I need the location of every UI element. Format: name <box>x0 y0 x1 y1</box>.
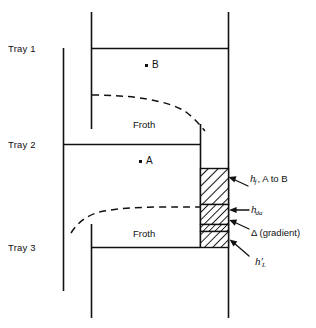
band-delta-gradient <box>201 225 229 232</box>
annotation-h-f: hf, A to B <box>250 173 288 184</box>
band-h-f <box>201 169 229 205</box>
leader-arrow-h-da <box>229 207 249 213</box>
band-h-da <box>201 205 229 225</box>
band-h-l-prime <box>201 232 229 248</box>
tray-hydraulics-figure: Tray 1 Tray 2 Tray 3 Froth Froth B A hf,… <box>0 0 316 328</box>
annotation-h-l-prime: h′L <box>255 256 267 267</box>
tray-3-label: Tray 3 <box>8 243 36 253</box>
tray-2-label: Tray 2 <box>8 140 36 150</box>
point-b-marker <box>145 64 148 67</box>
leader-arrow-h-l-prime <box>230 240 249 256</box>
froth-label-lower: Froth <box>133 229 155 239</box>
froth-label-upper: Froth <box>133 120 155 130</box>
annotation-delta-suffix: (gradient) <box>257 227 300 238</box>
leader-arrow-delta-gradient <box>229 219 249 229</box>
tray-1-label: Tray 1 <box>8 44 36 54</box>
annotation-h-l-prime-subscript: L <box>262 261 266 269</box>
annotation-h-da: hda <box>251 204 264 215</box>
downcomer-band-stack <box>201 169 229 248</box>
diagram-canvas <box>0 0 316 328</box>
point-a-marker <box>139 160 142 163</box>
annotation-h-da-subscript: da <box>256 209 263 217</box>
point-b-label: B <box>152 60 159 70</box>
annotation-delta-gradient: Δ (gradient) <box>251 228 300 238</box>
annotation-h-f-suffix: , A to B <box>257 173 287 184</box>
point-a-label: A <box>146 156 153 166</box>
leader-arrow-h-f <box>229 176 249 186</box>
